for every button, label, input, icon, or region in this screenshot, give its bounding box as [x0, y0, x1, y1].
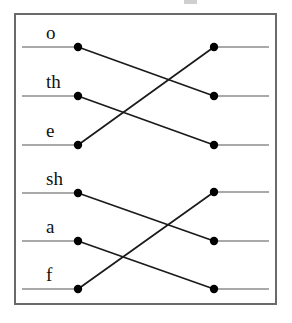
left-node-row-th — [74, 92, 82, 100]
alignment-diagram: otheshaf — [0, 0, 292, 323]
left-node-row-sh — [74, 189, 82, 197]
right-node-group-lower-1 — [210, 237, 218, 245]
right-node-group-lower-0 — [210, 188, 218, 196]
label-row-a: a — [46, 216, 55, 237]
right-node-group-upper-2 — [210, 141, 218, 149]
label-row-sh: sh — [46, 168, 63, 189]
diagram-border — [15, 14, 276, 304]
left-node-row-o — [74, 43, 82, 51]
label-row-o: o — [46, 22, 56, 43]
left-node-row-f — [74, 285, 82, 293]
top-edge-crop-mark — [184, 0, 197, 4]
label-row-th: th — [46, 71, 61, 92]
left-node-row-a — [74, 237, 82, 245]
artifact-layer — [184, 0, 197, 4]
right-node-group-upper-0 — [210, 43, 218, 51]
right-node-group-lower-2 — [210, 285, 218, 293]
right-node-group-upper-1 — [210, 92, 218, 100]
label-row-f: f — [46, 264, 53, 285]
label-row-e: e — [46, 120, 54, 141]
diagram-canvas: otheshaf — [0, 0, 292, 323]
left-node-row-e — [74, 141, 82, 149]
